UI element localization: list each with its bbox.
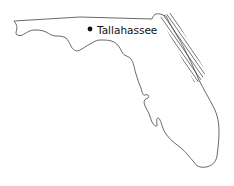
city-label-tallahassee: Tallahassee bbox=[97, 24, 157, 36]
hatched-coastal-area bbox=[160, 12, 206, 82]
city-marker-tallahassee bbox=[88, 27, 93, 32]
state-outline bbox=[14, 14, 219, 168]
